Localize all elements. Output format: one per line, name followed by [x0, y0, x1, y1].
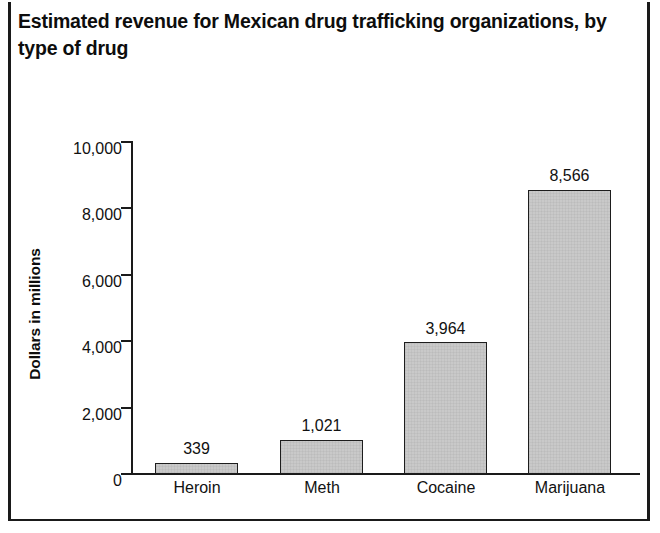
bar-marijuana[interactable] [528, 190, 611, 474]
y-tick-mark-2000 [121, 407, 132, 409]
y-tick-label-4000: 4,000 [52, 340, 122, 356]
bar-value-meth: 1,021 [280, 418, 363, 434]
y-tick-mark-0 [121, 473, 132, 475]
bar-value-heroin: 339 [155, 441, 238, 457]
y-tick-label-2000: 2,000 [52, 407, 122, 423]
bar-heroin[interactable] [155, 463, 238, 474]
plot-area: Dollars in millions 10,000 8,000 6,000 4… [0, 0, 660, 533]
y-axis-label: Dollars in millions [26, 234, 44, 394]
y-tick-mark-6000 [121, 274, 132, 276]
bar-value-marijuana: 8,566 [528, 168, 611, 184]
category-label-heroin: Heroin [151, 479, 243, 496]
y-tick-mark-8000 [121, 207, 132, 209]
category-label-meth: Meth [276, 479, 368, 496]
y-tick-label-0: 0 [52, 473, 122, 489]
category-label-cocaine: Cocaine [400, 479, 492, 496]
y-axis-line [131, 141, 133, 475]
y-tick-label-6000: 6,000 [52, 274, 122, 290]
bar-value-cocaine: 3,964 [404, 321, 487, 337]
category-label-marijuana: Marijuana [522, 479, 618, 496]
bar-meth[interactable] [280, 440, 363, 474]
y-tick-mark-4000 [121, 340, 132, 342]
y-tick-label-8000: 8,000 [52, 207, 122, 223]
y-tick-label-10000: 10,000 [52, 141, 122, 157]
y-tick-mark-10000 [121, 141, 132, 143]
bar-cocaine[interactable] [404, 342, 487, 474]
